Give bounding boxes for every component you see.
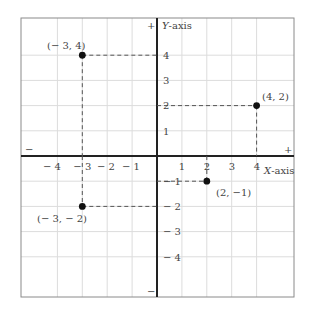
x-tick-label: 1 — [179, 161, 185, 172]
y-negative-marker: − — [147, 286, 155, 297]
y-tick-label: 4 — [163, 50, 169, 61]
x-axis-title: X-axis — [263, 165, 294, 176]
y-positive-marker: + — [147, 20, 155, 31]
point-label-4-2: (4, 2) — [262, 91, 289, 102]
x-tick-label: − 3 — [73, 161, 91, 172]
x-tick-label: − 2 — [97, 161, 115, 172]
y-tick-label: 3 — [163, 75, 169, 86]
x-tick-label: − 1 — [122, 161, 140, 172]
point-label-neg3-4: (− 3, 4) — [47, 40, 86, 51]
y-axis-title: Y-axis — [162, 20, 192, 31]
x-axis-title-suffix: -axis — [271, 165, 294, 176]
x-tick-label: − 4 — [43, 161, 61, 172]
y-tick-label: − 1 — [163, 176, 181, 187]
x-positive-marker: + — [284, 144, 292, 155]
y-tick-label: 1 — [163, 126, 169, 137]
x-tick-label: 3 — [229, 161, 235, 172]
point-neg3-neg2 — [79, 203, 86, 210]
y-axis-title-suffix: -axis — [169, 20, 192, 31]
x-tick-label: 2 — [204, 161, 210, 172]
point-label-2-neg1: (2, −1) — [216, 187, 251, 198]
y-tick-label: 2 — [163, 100, 169, 111]
y-tick-label: − 2 — [163, 201, 181, 212]
x-negative-marker: − — [25, 144, 33, 155]
point-2-neg1 — [203, 178, 210, 185]
x-tick-labels: − 4 − 3 − 2 − 1 1 2 3 4 — [43, 161, 260, 172]
point-neg3-4 — [79, 52, 86, 59]
coordinate-plane: (− 3, 4) (4, 2) (2, −1) (− 3, − 2) − 4 −… — [0, 0, 309, 315]
y-tick-label: − 4 — [163, 252, 181, 263]
point-label-neg3-neg2: (− 3, − 2) — [37, 213, 87, 224]
x-tick-label: 4 — [254, 161, 260, 172]
y-tick-label: − 3 — [163, 226, 181, 237]
point-4-2 — [253, 102, 260, 109]
